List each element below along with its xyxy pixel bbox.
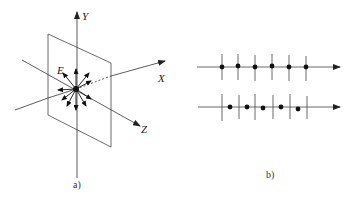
caption-a: a) (73, 179, 81, 191)
figure-canvas: Y X Z E a) (0, 0, 350, 200)
point-charge (73, 86, 79, 92)
x-axis-right (111, 61, 165, 76)
figure-b: b) (197, 54, 340, 181)
figure-a: Y X Z E a) (15, 10, 166, 191)
plane (48, 34, 111, 147)
lattice-row-offset (198, 94, 340, 121)
caption-b: b) (266, 169, 274, 181)
label-z: Z (141, 123, 148, 135)
label-x: X (157, 72, 166, 84)
z-axis (22, 60, 140, 126)
lattice-row-aligned (197, 54, 340, 81)
x-axis-left (15, 98, 48, 110)
label-y: Y (82, 10, 90, 22)
label-e: E (56, 64, 64, 76)
